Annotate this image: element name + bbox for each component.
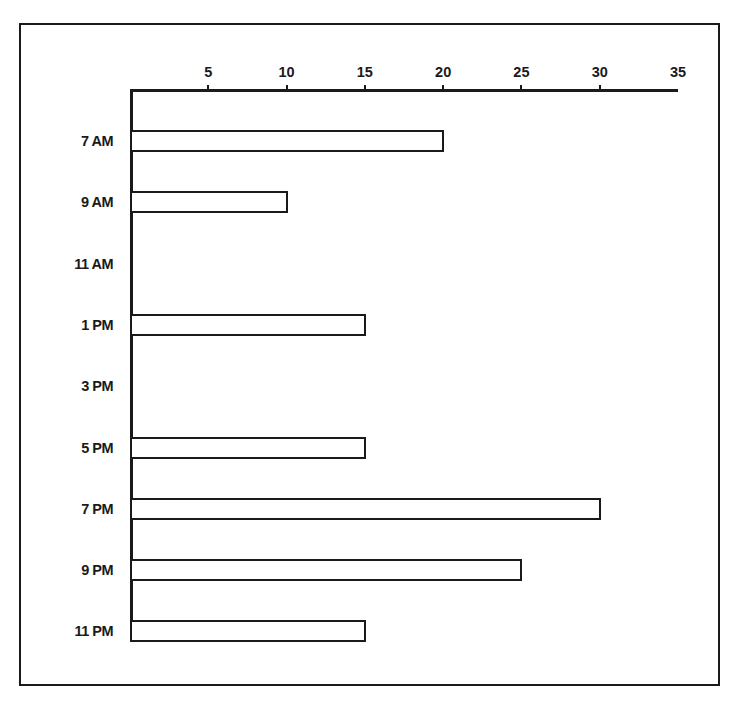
- bar-7-pm: [132, 498, 601, 520]
- x-tick-label: 10: [267, 64, 307, 80]
- category-label: 3 PM: [18, 378, 113, 394]
- x-axis-line: [130, 89, 678, 92]
- bar-1-pm: [132, 314, 366, 336]
- bar-9-pm: [132, 559, 522, 581]
- bar-chart: 51015202530357 AM9 AM11 AM1 PM3 PM5 PM7 …: [0, 0, 738, 703]
- x-tick: [442, 85, 444, 89]
- category-label: 9 AM: [18, 194, 113, 210]
- category-label: 11 AM: [18, 256, 113, 272]
- category-label: 7 AM: [18, 133, 113, 149]
- bar-7-am: [132, 130, 444, 152]
- x-tick: [364, 85, 366, 89]
- bar-5-pm: [132, 437, 366, 459]
- x-tick-label: 5: [188, 64, 228, 80]
- bar-9-am: [132, 191, 288, 213]
- x-tick-label: 25: [501, 64, 541, 80]
- x-tick: [520, 85, 522, 89]
- category-label: 7 PM: [18, 501, 113, 517]
- x-tick-label: 15: [345, 64, 385, 80]
- category-label: 5 PM: [18, 440, 113, 456]
- x-tick: [286, 85, 288, 89]
- x-tick-label: 20: [423, 64, 463, 80]
- category-label: 11 PM: [18, 623, 113, 639]
- category-label: 1 PM: [18, 317, 113, 333]
- x-tick: [599, 85, 601, 89]
- bar-11-pm: [132, 620, 366, 642]
- x-tick-label: 30: [580, 64, 620, 80]
- x-tick-label: 35: [658, 64, 698, 80]
- category-label: 9 PM: [18, 562, 113, 578]
- x-tick: [207, 85, 209, 89]
